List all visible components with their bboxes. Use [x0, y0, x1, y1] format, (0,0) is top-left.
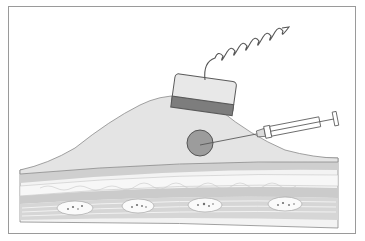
probe-cable: [205, 27, 289, 80]
illustration: [0, 0, 365, 241]
